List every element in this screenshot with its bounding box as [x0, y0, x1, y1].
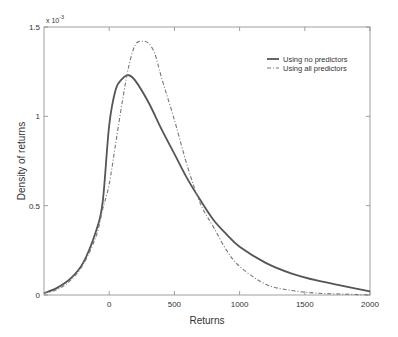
- y-tick-label: 0: [36, 291, 41, 300]
- x-axis-label: Returns: [189, 315, 224, 326]
- legend: Using no predictorsUsing all predictors: [267, 55, 348, 73]
- legend-label: Using no predictors: [283, 55, 348, 64]
- series-line-no-predictors: [44, 75, 370, 293]
- x-tick-label: 1000: [231, 300, 249, 309]
- x-tick-label: 1500: [296, 300, 314, 309]
- y-multiplier: x 10-3: [46, 14, 64, 24]
- x-tick-label: 0: [107, 300, 112, 309]
- series-line-all-predictors: [44, 41, 370, 295]
- legend-label: Using all predictors: [283, 64, 347, 73]
- y-tick-label: 0.5: [29, 202, 41, 211]
- density-chart: 050010001500200000.511.5 Using no predic…: [0, 0, 398, 337]
- y-tick-label: 1: [36, 112, 41, 121]
- y-axis-label: Density of returns: [16, 122, 27, 200]
- plot-series: [44, 41, 370, 295]
- x-tick-label: 2000: [361, 300, 379, 309]
- x-tick-label: 500: [168, 300, 182, 309]
- y-tick-label: 1.5: [29, 23, 41, 32]
